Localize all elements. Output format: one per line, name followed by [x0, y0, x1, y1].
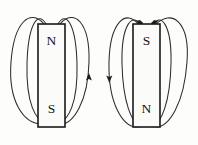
left-magnet-bottom-pole-label: S	[48, 101, 56, 116]
right-magnet-bottom-pole-label: N	[142, 101, 152, 116]
left-bar-magnet: N S	[38, 24, 65, 127]
right-magnet-top-pole-label: S	[143, 33, 151, 48]
right-bar-magnet: S N	[133, 24, 160, 127]
left-outer-right-arrowhead-up	[86, 73, 92, 80]
field-lines-canvas: N S S N	[0, 0, 198, 145]
magnetic-field-diagram: N S S N	[0, 0, 198, 145]
left-magnet-top-pole-label: N	[47, 33, 57, 48]
